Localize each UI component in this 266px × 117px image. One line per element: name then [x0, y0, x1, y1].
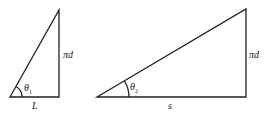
angle-arc-theta2: [125, 81, 130, 97]
left-triangle: [10, 10, 59, 97]
theta-subscript: 1: [29, 89, 32, 95]
angle-arc-theta1: [16, 87, 22, 98]
diagram-canvas: [0, 0, 266, 117]
left-base-label: L: [32, 101, 38, 111]
right-triangle: [97, 9, 246, 97]
right-vertical-label: πd: [249, 50, 259, 60]
right-base-label: s: [168, 101, 172, 111]
theta2-label: θ2: [130, 82, 138, 94]
left-vertical-label: πd: [63, 50, 73, 60]
theta1-label: θ1: [24, 83, 32, 95]
theta-subscript: 2: [135, 88, 138, 94]
